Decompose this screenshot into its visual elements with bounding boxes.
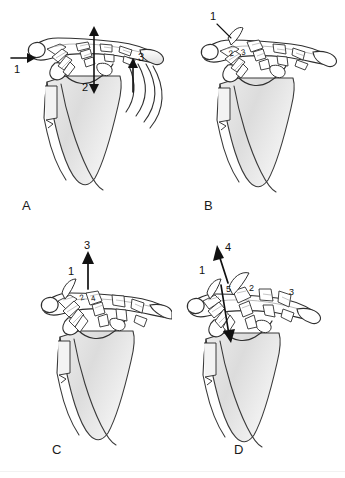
panel-letter-c: C bbox=[52, 443, 62, 456]
bottom-rule bbox=[0, 471, 345, 472]
acromion bbox=[297, 308, 320, 323]
panel-d-callout-4: 4 bbox=[225, 242, 231, 253]
acromion bbox=[313, 51, 336, 66]
scapula-spine-step bbox=[204, 343, 216, 377]
panel-b-callout-1: 1 bbox=[210, 11, 216, 22]
scapula-notch bbox=[219, 122, 226, 130]
rib-lines bbox=[126, 64, 162, 128]
panel-d: 4 1 5 2 3 bbox=[173, 239, 345, 478]
panel-c-illustration bbox=[0, 239, 172, 478]
callout-leader-1 bbox=[217, 24, 231, 38]
panel-letter-d: D bbox=[234, 443, 244, 456]
panel-d-callout-3: 3 bbox=[289, 288, 294, 297]
panel-b: 1 2 3 bbox=[173, 0, 345, 239]
scapula-body bbox=[206, 333, 280, 442]
panel-a-callout-1: 1 bbox=[14, 64, 20, 75]
panel-a-callout-3: 3 bbox=[138, 52, 144, 63]
panel-d-callout-2: 2 bbox=[249, 284, 254, 293]
panel-c-callout-3: 3 bbox=[84, 240, 90, 251]
panel-letter-b: B bbox=[204, 199, 213, 212]
clavicle-distal-end bbox=[201, 44, 218, 59]
callout-arrow-3 bbox=[82, 251, 94, 289]
panel-b-illustration bbox=[173, 0, 345, 239]
scapula-notch bbox=[46, 120, 53, 128]
scapula-notch bbox=[59, 375, 66, 383]
glenoid-lip bbox=[256, 320, 271, 332]
panel-c: 3 1 2 4 bbox=[0, 239, 172, 478]
panel-c-callout-1: 1 bbox=[68, 266, 74, 277]
scapula-spine-step bbox=[58, 341, 70, 375]
scapula-body bbox=[60, 331, 134, 440]
glenoid-lip bbox=[270, 65, 285, 77]
panel-a-callout-2: 2 bbox=[82, 82, 88, 93]
scapula-body bbox=[220, 78, 294, 187]
scapula-notch bbox=[205, 377, 212, 385]
clavicle-distal-end bbox=[41, 297, 58, 312]
scapula-spine-step bbox=[45, 86, 57, 120]
figure-root: 1 2 3 bbox=[0, 0, 345, 478]
scapula-spine-step bbox=[218, 88, 230, 122]
clavicle-distal-end bbox=[187, 298, 204, 313]
panel-letter-a: A bbox=[22, 199, 31, 212]
panel-d-callout-1: 1 bbox=[199, 265, 205, 276]
panel-d-callout-5: 5 bbox=[226, 285, 231, 294]
glenoid-lip bbox=[97, 63, 112, 75]
